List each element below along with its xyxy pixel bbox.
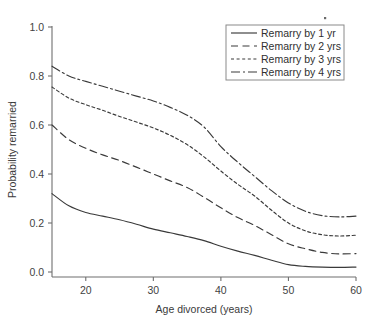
- y-tick-label: 1.0: [29, 21, 44, 33]
- legend-label-4: Remarry by 4 yrs: [261, 66, 341, 78]
- y-tick-label: 0.0: [29, 266, 44, 278]
- x-axis-title: Age divorced (years): [156, 303, 253, 315]
- chart-figure: 0.00.20.40.60.81.02030405060Age divorced…: [0, 0, 371, 328]
- scan-artifact-dot: [324, 17, 326, 19]
- y-tick-label: 0.4: [29, 168, 44, 180]
- x-tick-label: 30: [147, 284, 159, 296]
- plot-area: 0.00.20.40.60.81.02030405060Age divorced…: [6, 17, 362, 315]
- series-line-2: [52, 125, 356, 254]
- x-tick-label: 20: [80, 284, 92, 296]
- y-tick-label: 0.2: [29, 217, 44, 229]
- chart-canvas: 0.00.20.40.60.81.02030405060Age divorced…: [0, 0, 371, 328]
- y-axis-title: Probability remarried: [6, 101, 18, 198]
- legend-label-1: Remarry by 1 yr: [261, 27, 336, 39]
- legend-label-2: Remarry by 2 yrs: [261, 40, 341, 52]
- x-tick-label: 50: [283, 284, 295, 296]
- x-tick-label: 60: [350, 284, 362, 296]
- x-tick-label: 40: [215, 284, 227, 296]
- series-line-3: [52, 87, 356, 236]
- series-line-1: [52, 194, 356, 268]
- series-line-4: [52, 66, 356, 217]
- legend-label-3: Remarry by 3 yrs: [261, 53, 341, 65]
- y-tick-label: 0.6: [29, 119, 44, 131]
- y-tick-label: 0.8: [29, 70, 44, 82]
